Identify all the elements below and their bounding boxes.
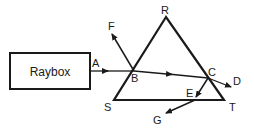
label-e: E xyxy=(186,87,193,99)
label-c: C xyxy=(208,66,216,78)
label-a: A xyxy=(92,57,100,69)
prism-triangle xyxy=(114,17,224,100)
reflected-ray-ce xyxy=(196,78,208,97)
label-b: B xyxy=(131,72,138,84)
label-r: R xyxy=(161,4,169,16)
label-g: G xyxy=(153,114,162,126)
raybox-label: Raybox xyxy=(30,65,71,79)
prism-ray-diagram: Raybox A B R S T C D F E G xyxy=(0,0,254,130)
refracted-ray-bc xyxy=(134,71,208,78)
label-s: S xyxy=(104,101,111,113)
emergent-ray-eg xyxy=(166,100,195,113)
label-f: F xyxy=(108,20,115,32)
label-t: T xyxy=(229,101,236,113)
raybox: Raybox xyxy=(10,53,90,89)
reflected-ray-bf xyxy=(112,34,134,71)
label-d: D xyxy=(233,75,241,87)
